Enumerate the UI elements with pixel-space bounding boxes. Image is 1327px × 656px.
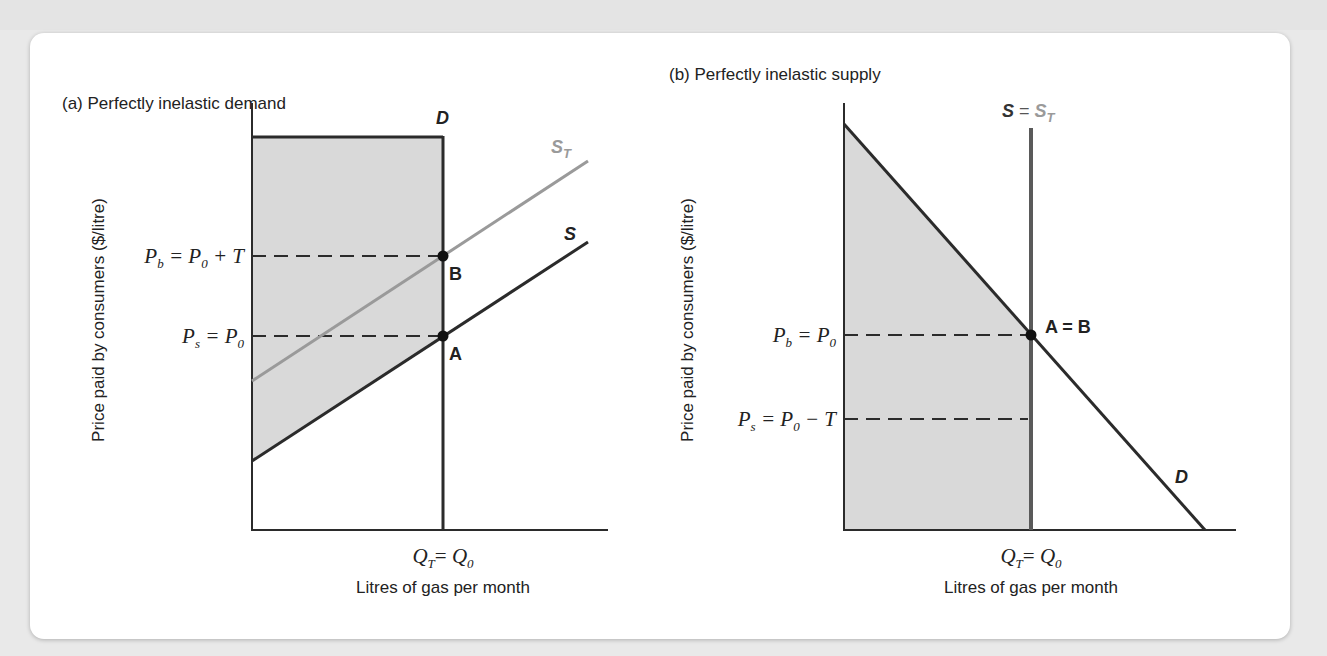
y-axis-title: Price paid by consumers ($/litre) [89,198,108,442]
figure-svg: (a) Perfectly inelastic demand B A D ST … [0,0,1327,656]
shaded-area [252,137,443,461]
x-axis-title: Litres of gas per month [356,578,530,597]
point-a-marker [438,331,449,342]
point-a-label: A [449,344,462,364]
q-tick-label: QT= Q0 [1000,544,1062,571]
shaded-area [844,124,1031,530]
ps-tick-label: Ps = P0 [181,324,244,351]
panel-b-title: (b) Perfectly inelastic supply [669,65,881,84]
pb-tick-label: Pb = P0 [772,323,837,350]
point-b-marker [438,251,449,262]
y-axis-title: Price paid by consumers ($/litre) [678,198,697,442]
panel-a: (a) Perfectly inelastic demand B A D ST … [62,94,608,597]
point-ab-label: A = B [1045,317,1091,337]
q-tick-label: QT= Q0 [412,544,474,571]
pb-tick-label: Pb = P0 + T [143,244,245,271]
demand-label: D [436,108,449,128]
supply-tax-label: ST [551,137,572,161]
point-b-label: B [449,264,462,284]
supply-label: S [564,224,576,244]
point-ab-marker [1026,330,1037,341]
ps-tick-label: Ps = P0 − T [737,407,838,434]
supply-label: S = ST [1002,101,1056,125]
demand-label: D [1175,467,1188,487]
x-axis-title: Litres of gas per month [944,578,1118,597]
panel-b: (b) Perfectly inelastic supply A = B S =… [669,65,1236,597]
